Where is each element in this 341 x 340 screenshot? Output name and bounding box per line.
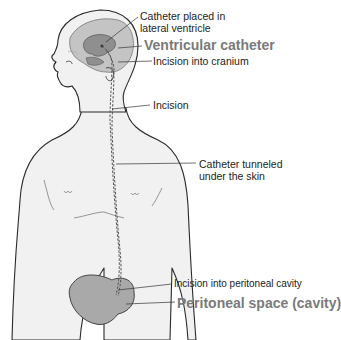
label-ventricular-catheter: Ventricular catheter — [144, 37, 275, 53]
label-catheter-tunneled: Catheter tunneled under the skin — [199, 158, 282, 182]
label-line: Catheter tunneled — [199, 158, 282, 170]
label-line: lateral ventricle — [140, 22, 225, 34]
label-peritoneal-space: Peritoneal space (cavity) — [177, 295, 341, 311]
label-line: Catheter placed in — [140, 10, 225, 22]
label-incision-peritoneal: Incision into peritoneal cavity — [174, 278, 302, 290]
label-incision-cranium: Incision into cranium — [153, 55, 249, 67]
label-line: under the skin — [199, 170, 282, 182]
label-incision: Incision — [153, 99, 189, 111]
label-catheter-lateral-ventricle: Catheter placed in lateral ventricle — [140, 10, 225, 34]
